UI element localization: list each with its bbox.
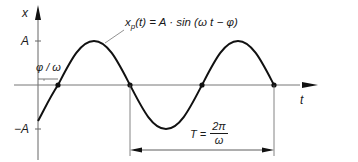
amplitude-label: A [21, 35, 29, 47]
phase-shift-label: φ / ω [36, 62, 61, 73]
period-label: T = 2π ω [190, 121, 228, 146]
zero-crossing-dot [199, 82, 204, 87]
t-axis-arrow-icon [302, 82, 318, 88]
neg-amplitude-label: −A [14, 123, 29, 135]
period-arrow-right-icon [262, 148, 274, 153]
period-numerator: 2π [210, 121, 228, 134]
formula-label: xp(t) = A · sin (ω t − φ) [125, 17, 238, 31]
formula-leader-line [105, 30, 124, 43]
period-lhs: T = [190, 128, 206, 140]
period-arrow-left-icon [130, 148, 142, 153]
x-axis-label: x [22, 7, 28, 19]
period-fraction: 2π ω [210, 121, 228, 146]
sine-wave-diagram: x A −A t φ / ω xp(t) = A · sin (ω t − φ)… [0, 0, 358, 162]
zero-crossing-dot [55, 82, 60, 87]
t-axis-label: t [300, 94, 303, 106]
formula-rhs: (t) = A · sin (ω t − φ) [135, 16, 238, 28]
x-axis-arrow-icon [35, 5, 41, 20]
period-denominator: ω [215, 134, 224, 146]
